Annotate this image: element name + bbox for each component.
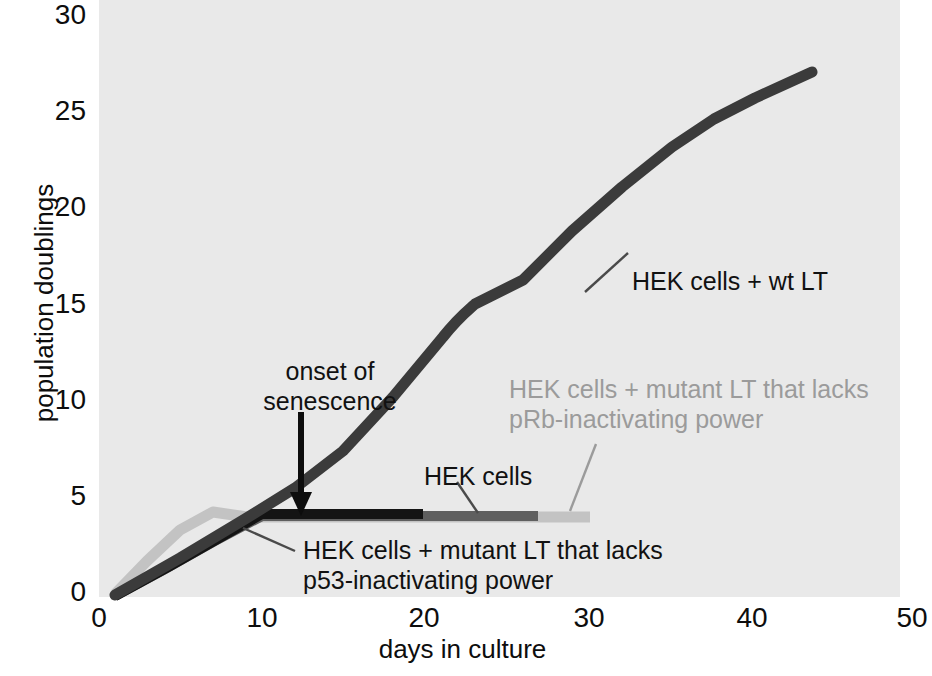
p53-mutant-line-2: p53-inactivating power: [303, 566, 663, 596]
annotation-p53-mutant: HEK cells + mutant LT that lacks p53-ina…: [303, 536, 663, 595]
prb-mutant-line-1: HEK cells + mutant LT that lacks: [509, 375, 869, 405]
annotation-wt-lt: HEK cells + wt LT: [632, 267, 828, 297]
annotation-onset-senescence: onset of senescence: [240, 357, 420, 416]
onset-senescence-arrow: [290, 412, 312, 516]
leader-p53-mutant: [243, 528, 295, 551]
annotation-prb-mutant: HEK cells + mutant LT that lacks pRb-ina…: [509, 375, 869, 434]
onset-line-1: onset of: [240, 357, 420, 387]
prb-mutant-line-2: pRb-inactivating power: [509, 405, 869, 435]
leader-wt-lt: [585, 253, 628, 292]
leader-prb-mutant: [570, 444, 596, 511]
onset-line-2: senescence: [240, 387, 420, 417]
annotation-hek-cells: HEK cells: [424, 462, 532, 492]
p53-mutant-line-1: HEK cells + mutant LT that lacks: [303, 536, 663, 566]
